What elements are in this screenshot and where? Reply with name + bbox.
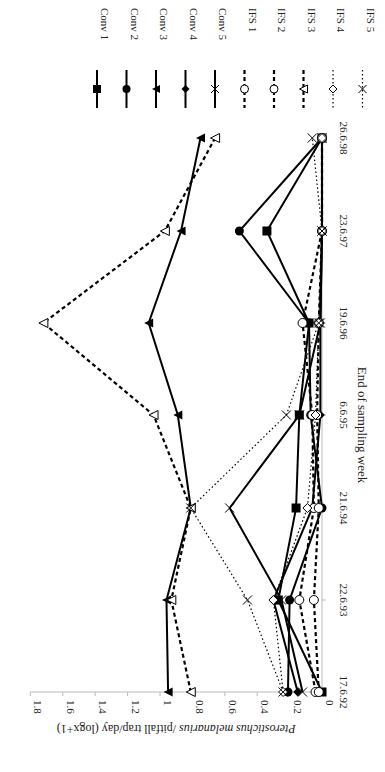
square-marker-icon	[93, 85, 101, 93]
open-triangle-marker-icon	[160, 227, 169, 236]
legend-label: IFS 2	[276, 8, 288, 32]
open-triangle-marker-icon	[39, 319, 48, 328]
value-tick-label: 1.2	[130, 700, 142, 714]
circle-marker-icon	[285, 596, 294, 605]
value-axis-title: Pterostichus melanarius /pitfall trap/da…	[57, 722, 297, 736]
legend-label: Conv 3	[158, 8, 170, 41]
x-marker-icon	[243, 596, 252, 605]
x-marker-icon	[225, 504, 234, 513]
value-tick-label: 0	[324, 700, 336, 706]
value-tick-label: 0.4	[259, 700, 271, 714]
square-marker-icon	[262, 227, 271, 236]
category-tick-label: 6.6.95	[338, 401, 350, 429]
chart-canvas: 00.20.40.60.811.21.41.61.817.6.9222.6.93…	[0, 0, 385, 772]
open-triangle-marker-icon	[149, 411, 158, 420]
legend-label: IFS 5	[365, 8, 377, 33]
open-circle-marker-icon	[314, 504, 323, 513]
square-marker-icon	[292, 504, 301, 513]
value-tick-label: 0.2	[292, 700, 304, 714]
category-tick-label: 23.6.97	[338, 215, 350, 249]
open-triangle-marker-icon	[211, 134, 220, 143]
value-tick-label: 1	[162, 700, 174, 706]
axis-titles: End of sampling weekPterostichus melanar…	[57, 367, 370, 736]
circle-marker-icon	[235, 227, 244, 236]
category-axis-title: End of sampling week	[355, 367, 370, 484]
legend-label: IFS 1	[247, 8, 259, 32]
value-tick-label: 1.8	[32, 700, 44, 714]
chart: 00.20.40.60.811.21.41.61.817.6.9222.6.93…	[0, 0, 385, 772]
category-tick-label: 22.6.93	[338, 584, 350, 618]
legend-label: Conv 4	[188, 8, 200, 41]
category-tick-label: 19.6.96	[338, 307, 350, 341]
value-tick-label: 1.6	[65, 700, 77, 714]
open-circle-marker-icon	[295, 596, 304, 605]
legend-label: Conv 1	[99, 8, 111, 40]
category-tick-label: 26.6.98	[338, 122, 350, 156]
diamond-marker-icon	[182, 85, 190, 93]
series-line-ifs-3	[43, 138, 215, 692]
open-diamond-marker-icon	[329, 85, 337, 93]
value-tick-label: 1.4	[97, 700, 109, 714]
legend-label: IFS 4	[335, 8, 347, 33]
open-circle-marker-icon	[309, 596, 318, 605]
x-marker-icon	[282, 411, 291, 420]
legend-label: Conv 2	[129, 8, 141, 40]
unit-text: /pitfall trap/day (logx+1)	[57, 722, 179, 736]
legend: Conv 1Conv 2Conv 3Conv 4Conv 5IFS 1IFS 2…	[93, 8, 377, 108]
circle-marker-icon	[123, 85, 131, 93]
category-tick-label: 21.6.94	[338, 492, 350, 526]
category-tick-label: 17.6.92	[338, 676, 350, 709]
open-circle-marker-icon	[270, 85, 278, 93]
species-name: Pterostichus melanarius	[179, 722, 297, 736]
value-tick-label: 0.6	[227, 700, 239, 714]
legend-label: IFS 3	[306, 8, 318, 33]
open-circle-marker-icon	[314, 688, 323, 697]
open-circle-marker-icon	[298, 319, 307, 328]
open-circle-marker-icon	[241, 85, 249, 93]
series-lines	[43, 138, 322, 692]
legend-label: Conv 5	[217, 8, 229, 41]
value-tick-label: 0.8	[194, 700, 206, 714]
